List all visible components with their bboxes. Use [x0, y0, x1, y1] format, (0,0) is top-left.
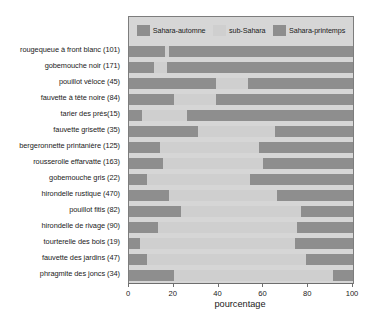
- bar-segment: [198, 126, 274, 137]
- legend-entry: Sahara-automne: [137, 25, 206, 36]
- bars-container: [129, 43, 353, 283]
- bar-segment: [250, 174, 353, 185]
- x-axis-title: pourcentage: [128, 299, 352, 309]
- bar-segment: [295, 238, 353, 249]
- chart-legend: Sahara-automnesub-SaharaSahara-printemps: [129, 17, 353, 43]
- y-axis-label: tourterelle des bois (19): [0, 234, 124, 250]
- bar-segment: [129, 62, 154, 73]
- legend-entry: sub-Sahara: [213, 25, 266, 36]
- bar-track: [129, 94, 353, 105]
- bar-segment: [277, 190, 353, 201]
- bar-segment: [158, 222, 297, 233]
- bar-row: [129, 107, 353, 123]
- bar-segment: [275, 126, 353, 137]
- legend-swatch-icon: [213, 25, 226, 36]
- x-axis-tick-label: 80: [303, 289, 311, 298]
- bar-segment: [129, 222, 158, 233]
- bar-segment: [174, 94, 217, 105]
- bar-row: [129, 155, 353, 171]
- bar-segment: [129, 110, 142, 121]
- bar-row: [129, 43, 353, 59]
- bar-segment: [129, 78, 216, 89]
- bar-segment: [248, 78, 353, 89]
- x-axis-tick-label: 0: [126, 289, 130, 298]
- bar-segment: [129, 46, 165, 57]
- bar-segment: [160, 142, 259, 153]
- bar-segment: [129, 158, 163, 169]
- y-axis-label: phragmite des joncs (34): [0, 266, 124, 282]
- x-axis-tick: [128, 283, 129, 287]
- bar-row: [129, 187, 353, 203]
- bar-segment: [129, 174, 147, 185]
- bar-row: [129, 139, 353, 155]
- bar-segment: [174, 270, 333, 281]
- x-axis: 020406080100: [128, 283, 352, 284]
- y-axis-label: rousserolle effarvatte (163): [0, 154, 124, 170]
- bar-track: [129, 254, 353, 265]
- bar-row: [129, 59, 353, 75]
- bar-segment: [129, 126, 198, 137]
- x-axis-tick: [173, 283, 174, 287]
- bar-segment: [306, 254, 353, 265]
- bar-segment: [142, 110, 187, 121]
- bar-track: [129, 62, 353, 73]
- y-axis-label: fauvette grisette (35): [0, 122, 124, 138]
- x-axis-tick: [218, 283, 219, 287]
- bar-segment: [297, 222, 353, 233]
- bar-row: [129, 267, 353, 283]
- bar-row: [129, 91, 353, 107]
- bar-track: [129, 142, 353, 153]
- bar-segment: [154, 62, 167, 73]
- x-axis-tick-label: 40: [213, 289, 221, 298]
- stacked-bar-chart: rougequeue à front blanc (101)gobemouche…: [0, 0, 367, 334]
- bar-segment: [129, 238, 140, 249]
- bar-segment: [147, 254, 306, 265]
- bar-row: [129, 171, 353, 187]
- bar-track: [129, 174, 353, 185]
- y-axis-label: hirondelle rustique (470): [0, 186, 124, 202]
- bar-segment: [169, 190, 277, 201]
- legend-swatch-icon: [273, 25, 286, 36]
- bar-segment: [163, 158, 264, 169]
- y-axis-label: gobemouche gris (22): [0, 170, 124, 186]
- bar-row: [129, 251, 353, 267]
- bar-track: [129, 238, 353, 249]
- bar-segment: [169, 46, 353, 57]
- bar-track: [129, 110, 353, 121]
- bar-track: [129, 126, 353, 137]
- bar-track: [129, 158, 353, 169]
- bar-segment: [129, 254, 147, 265]
- y-axis-label: fauvette à tête noire (84): [0, 90, 124, 106]
- y-axis-label: bergeronnette printanière (125): [0, 138, 124, 154]
- bar-segment: [129, 270, 174, 281]
- y-axis-label: fauvette des jardins (47): [0, 250, 124, 266]
- bar-segment: [129, 190, 169, 201]
- y-axis-labels: rougequeue à front blanc (101)gobemouche…: [0, 42, 124, 282]
- bar-segment: [333, 270, 353, 281]
- bar-segment: [129, 94, 174, 105]
- bar-segment: [129, 142, 160, 153]
- legend-entry: Sahara-printemps: [273, 25, 345, 36]
- bar-row: [129, 123, 353, 139]
- x-axis-tick: [262, 283, 263, 287]
- x-axis-tick-label: 60: [258, 289, 266, 298]
- bar-segment: [140, 238, 295, 249]
- bar-segment: [216, 78, 247, 89]
- bar-track: [129, 270, 353, 281]
- bar-row: [129, 75, 353, 91]
- y-axis-label: hirondelle de rivage (90): [0, 218, 124, 234]
- bar-track: [129, 206, 353, 217]
- legend-label: Sahara-printemps: [289, 26, 345, 35]
- bar-segment: [147, 174, 250, 185]
- bar-segment: [167, 62, 353, 73]
- bar-row: [129, 235, 353, 251]
- y-axis-label: pouillot véloce (45): [0, 74, 124, 90]
- bar-track: [129, 46, 353, 57]
- bar-track: [129, 78, 353, 89]
- y-axis-label: tarier des prés(15): [0, 106, 124, 122]
- x-axis-tick: [352, 283, 353, 287]
- y-axis-label: pouillot fitis (82): [0, 202, 124, 218]
- bar-track: [129, 190, 353, 201]
- bar-segment: [129, 206, 181, 217]
- bar-segment: [301, 206, 353, 217]
